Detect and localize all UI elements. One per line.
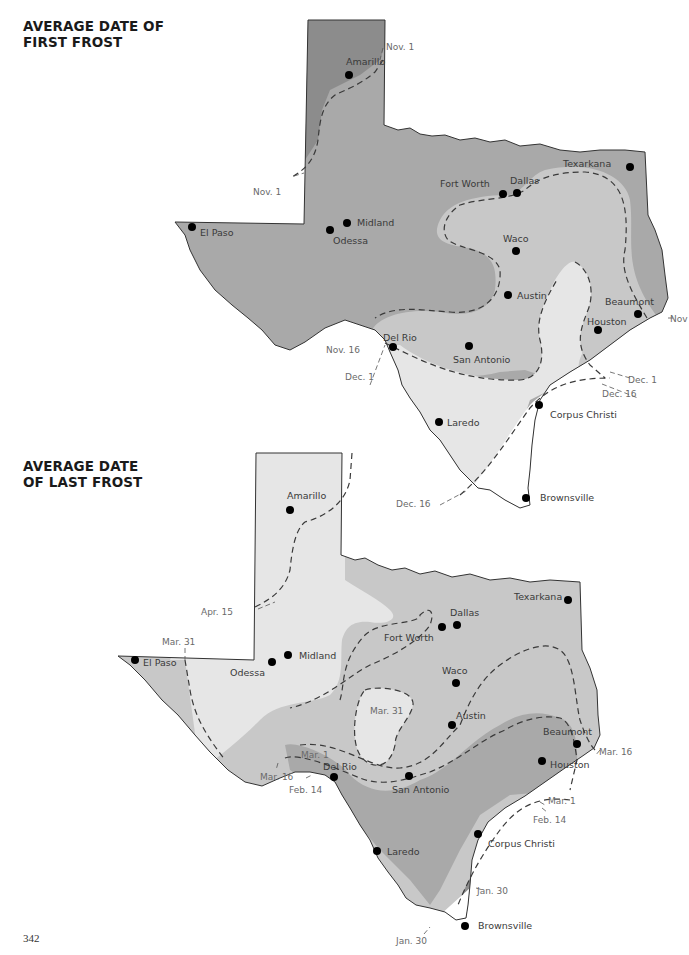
city-label-austin: Austin: [456, 710, 486, 721]
label-dec16-bottom: Dec. 16: [396, 499, 431, 509]
city-label-beaumont: Beaumont: [605, 296, 654, 307]
city-label-el-paso: El Paso: [143, 657, 177, 668]
city-dot-del-rio: [389, 343, 397, 351]
city-dot-el-paso: [131, 656, 139, 664]
city-label-amarillo: Amarillo: [346, 56, 385, 67]
label-nov16: Nov. 16: [326, 345, 360, 355]
city-dot-beaumont: [634, 310, 642, 318]
city-label-waco: Waco: [442, 665, 468, 676]
city-label-brownsville: Brownsville: [478, 920, 532, 931]
city-dot-corpus-christi: [474, 830, 482, 838]
label-mar1-right: Mar. 1: [548, 796, 576, 806]
city-dot-el-paso: [188, 223, 196, 231]
city-label-el-paso: El Paso: [200, 227, 234, 238]
city-dot-san-antonio: [465, 342, 473, 350]
city-dot-brownsville: [461, 922, 469, 930]
city-dot-amarillo: [345, 71, 353, 79]
city-label-texarkana: Texarkana: [562, 158, 611, 169]
city-label-odessa: Odessa: [230, 667, 265, 678]
city-dot-beaumont: [573, 740, 581, 748]
city-label-san-antonio: San Antonio: [392, 784, 450, 795]
last-frost-map: Apr. 15 Mar. 31 Mar. 31 Mar. 1 Mar. 16 F…: [110, 450, 633, 946]
city-label-san-antonio: San Antonio: [453, 354, 511, 365]
city-label-del-rio: Del Rio: [383, 332, 417, 343]
city-dot-laredo: [435, 418, 443, 426]
city-label-fort-worth: Fort Worth: [384, 632, 434, 643]
city-dot-brownsville: [522, 494, 530, 502]
city-label-del-rio: Del Rio: [323, 761, 357, 772]
city-label-corpus-christi: Corpus Christi: [550, 409, 617, 420]
city-dot-dallas: [513, 189, 521, 197]
city-dot-texarkana: [564, 596, 572, 604]
city-dot-laredo: [373, 847, 381, 855]
city-label-dallas: Dallas: [450, 607, 479, 618]
label-mar1-left: Mar. 1: [301, 750, 329, 760]
city-label-odessa: Odessa: [333, 235, 368, 246]
city-label-brownsville: Brownsville: [540, 492, 594, 503]
label-jan30-bottom: Jan. 30: [395, 936, 427, 946]
city-dot-texarkana: [626, 163, 634, 171]
label-mar31-left: Mar. 31: [162, 637, 195, 647]
label-mar16-right: Mar. 16: [599, 747, 633, 757]
city-dot-amarillo: [286, 506, 294, 514]
label-mar16-left: Mar. 16: [260, 772, 294, 782]
city-label-houston: Houston: [550, 759, 589, 770]
city-dot-austin: [504, 291, 512, 299]
city-label-midland: Midland: [299, 650, 336, 661]
city-dot-del-rio: [330, 773, 338, 781]
city-dot-corpus-christi: [535, 401, 543, 409]
leader-right-feb: [540, 802, 547, 812]
city-dot-midland: [284, 651, 292, 659]
city-dot-odessa: [268, 658, 276, 666]
city-dot-waco: [452, 679, 460, 687]
frost-maps: Nov. 1 Nov. 1 Nov Nov. 16 Dec. 1 Dec. 1 …: [0, 0, 689, 955]
leader-dec16-bottom: [440, 490, 468, 505]
label-dec16-right: Dec. 16: [602, 389, 637, 399]
label-jan30-right: Jan. 30: [476, 886, 508, 896]
city-dot-dallas: [453, 621, 461, 629]
zone-mar16-to-mar31: [110, 450, 610, 930]
city-label-midland: Midland: [357, 217, 394, 228]
city-label-beaumont: Beaumont: [543, 726, 592, 737]
label-feb14-right: Feb. 14: [533, 815, 566, 825]
city-label-dallas: Dallas: [510, 175, 539, 186]
leader-feb14-left: [306, 775, 312, 778]
city-dot-houston: [538, 757, 546, 765]
city-label-corpus-christi: Corpus Christi: [488, 838, 555, 849]
city-dot-houston: [594, 326, 602, 334]
city-label-amarillo: Amarillo: [287, 490, 326, 501]
city-label-texarkana: Texarkana: [513, 591, 562, 602]
city-dot-fort-worth: [499, 190, 507, 198]
label-dec1-right: Dec. 1: [628, 375, 657, 385]
city-dot-san-antonio: [405, 772, 413, 780]
city-dot-odessa: [326, 226, 334, 234]
city-dot-midland: [343, 219, 351, 227]
label-nov-right: Nov: [670, 314, 688, 324]
city-label-laredo: Laredo: [387, 846, 420, 857]
label-feb14-left: Feb. 14: [289, 785, 322, 795]
city-label-houston: Houston: [587, 316, 626, 327]
city-label-waco: Waco: [503, 233, 529, 244]
label-dec1-left: Dec. 1: [345, 372, 374, 382]
city-label-fort-worth: Fort Worth: [440, 178, 490, 189]
label-mar31-island: Mar. 31: [370, 706, 403, 716]
label-nov1-top: Nov. 1: [386, 42, 414, 52]
city-dot-fort-worth: [438, 623, 446, 631]
label-nov1-left: Nov. 1: [253, 187, 281, 197]
city-dot-waco: [512, 247, 520, 255]
first-frost-map: Nov. 1 Nov. 1 Nov Nov. 16 Dec. 1 Dec. 1 …: [170, 15, 689, 530]
label-apr15: Apr. 15: [201, 607, 233, 617]
city-dot-austin: [448, 721, 456, 729]
city-label-laredo: Laredo: [447, 417, 480, 428]
city-label-austin: Austin: [517, 290, 547, 301]
leader-jan30-bottom: [424, 927, 430, 934]
